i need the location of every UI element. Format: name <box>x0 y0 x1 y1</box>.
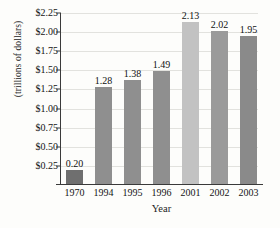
x-axis-title: Year <box>60 203 263 214</box>
y-tick-label: $2.00 <box>36 27 59 37</box>
bar: 1.38 <box>124 80 142 185</box>
bar: 0.20 <box>66 170 84 185</box>
y-tick-mark <box>56 70 61 71</box>
y-tick-label: $0.25 <box>36 161 59 171</box>
x-tick-label: 1994 <box>94 187 114 199</box>
y-axis-tick-labels: $2.25$2.00$1.75$1.50$1.25$1.00$0.75$0.50… <box>16 13 58 185</box>
bar-value-label: 0.20 <box>66 158 84 169</box>
x-axis-tick-labels: 1970199419951996200120022003 <box>60 187 263 201</box>
bar-chart: (trillions of dollars) $2.25$2.00$1.75$1… <box>0 0 280 228</box>
bar: 2.02 <box>211 31 229 185</box>
x-tick-label: 1995 <box>123 187 143 199</box>
bar: 1.95 <box>240 36 258 185</box>
bar: 2.13 <box>182 22 200 185</box>
y-tick-label: $1.25 <box>36 84 59 94</box>
bar: 1.28 <box>95 87 113 185</box>
bar-value-label: 1.95 <box>240 24 258 35</box>
y-tick-mark <box>56 32 61 33</box>
bar-value-label: 1.49 <box>153 59 171 70</box>
plot-area: 0.201.281.381.492.132.021.95 <box>60 13 263 185</box>
y-tick-mark <box>56 108 61 109</box>
gridline <box>60 13 258 14</box>
bar-value-label: 2.13 <box>182 10 200 21</box>
x-tick-label: 2001 <box>181 187 201 199</box>
y-tick-label: $1.00 <box>36 104 59 114</box>
x-tick-label: 1970 <box>65 187 85 199</box>
y-tick-label: $1.75 <box>36 46 59 56</box>
y-tick-mark <box>56 51 61 52</box>
y-axis-line <box>60 13 61 185</box>
bar: 1.49 <box>153 71 171 185</box>
y-tick-mark <box>56 165 61 166</box>
y-tick-label: $2.25 <box>36 8 59 18</box>
y-tick-label: $0.75 <box>36 123 59 133</box>
x-tick-label: 1996 <box>152 187 172 199</box>
bar-value-label: 2.02 <box>211 19 229 30</box>
y-tick-label: $0.50 <box>36 142 59 152</box>
y-tick-label: $1.50 <box>36 65 59 75</box>
bar-value-label: 1.38 <box>124 68 142 79</box>
y-tick-mark <box>56 127 61 128</box>
bar-value-label: 1.28 <box>95 75 113 86</box>
y-tick-mark <box>56 146 61 147</box>
y-tick-mark <box>56 89 61 90</box>
x-axis-line <box>56 184 263 185</box>
x-tick-label: 2002 <box>210 187 230 199</box>
y-tick-mark <box>56 13 61 14</box>
x-tick-label: 2003 <box>239 187 259 199</box>
